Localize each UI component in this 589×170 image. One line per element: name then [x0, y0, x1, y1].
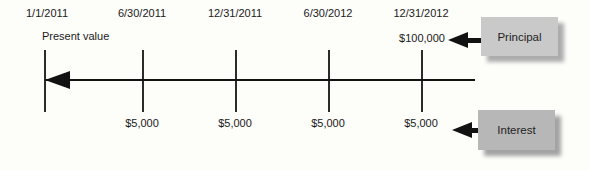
timeline-tick	[235, 50, 237, 112]
principal-amount: $100,000	[399, 32, 445, 44]
timeline-tick	[328, 50, 330, 112]
date-label: 6/30/2011	[118, 7, 166, 19]
interest-amount: $5,000	[125, 117, 159, 129]
principal-arrow-stub	[466, 38, 481, 43]
interest-amount: $5,000	[404, 117, 438, 129]
interest-box-label: Interest	[497, 124, 535, 136]
interest-amount: $5,000	[218, 117, 252, 129]
present-value-timeline-figure: 1/1/2011 6/30/2011 12/31/2011 6/30/2012 …	[0, 0, 589, 170]
date-label: 12/31/2012	[393, 7, 448, 19]
date-label: 6/30/2012	[304, 7, 353, 19]
timeline-tick	[421, 50, 423, 112]
timeline-axis	[46, 79, 475, 82]
interest-arrow-stub	[470, 128, 478, 133]
date-label: 1/1/2011	[26, 7, 68, 19]
present-value-label: Present value	[42, 30, 109, 42]
interest-box: Interest	[478, 110, 555, 150]
date-label: 12/31/2011	[208, 7, 262, 19]
principal-box: Principal	[481, 17, 558, 56]
timeline-tick	[142, 50, 144, 112]
arrow-left-icon	[45, 71, 70, 89]
principal-box-label: Principal	[497, 31, 541, 43]
arrow-left-icon	[448, 32, 468, 48]
arrow-left-icon	[452, 122, 472, 138]
interest-amount: $5,000	[311, 117, 345, 129]
